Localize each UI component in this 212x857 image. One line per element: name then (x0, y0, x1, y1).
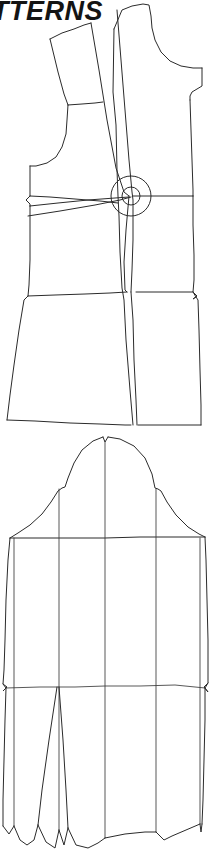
dart-leg-inner (124, 196, 129, 292)
sleeve-cap-curve-right (108, 437, 205, 537)
biceps-line (10, 537, 205, 538)
underarm-seam-left (3, 538, 10, 826)
bodice-right-side-upper (190, 100, 193, 196)
shoulder-dart-leg-left (91, 23, 129, 196)
center-dart-left-leg (38, 687, 57, 825)
sleeve-cap-curve-left (10, 437, 103, 538)
armhole-curve-left (30, 105, 68, 166)
hem-scallop-4 (59, 828, 68, 845)
hem-scallop-5 (68, 828, 105, 848)
hem-scallop-2 (14, 825, 38, 845)
hem-line-left (7, 420, 131, 425)
bodice-left-skirt-side (7, 296, 28, 420)
bodice-left-outline-upper (50, 39, 68, 105)
elbow-line (6, 685, 205, 688)
waist-notch-left (26, 196, 30, 206)
bodice-left-side-lower (28, 206, 30, 296)
underarm-seam-right (202, 537, 208, 824)
bodice-right-side-lower (193, 196, 201, 425)
illustration-page: ATTERNS (0, 0, 212, 857)
center-dart-right-leg (59, 687, 68, 828)
hem-scallop-3 (38, 825, 59, 848)
waist-line-left-lower (28, 292, 127, 296)
hem-scallop-8 (200, 824, 202, 832)
bodice-left-shoulder-top (50, 23, 91, 39)
center-front-line (131, 292, 137, 425)
hem-scallop-7 (156, 824, 200, 840)
hem-scallop-6 (105, 832, 156, 838)
bodice-left-armhole-top (68, 102, 103, 105)
figure-bodice-front-pivot (7, 4, 202, 425)
hem-scallop-1 (3, 826, 14, 834)
pattern-figures (0, 0, 212, 857)
neckline-shoulder-right (114, 4, 202, 68)
armhole-curve-right (190, 68, 202, 100)
waist-line-left (30, 196, 118, 203)
figure-sleeve-slash-spread (3, 437, 208, 848)
cap-notch-top (103, 437, 108, 442)
